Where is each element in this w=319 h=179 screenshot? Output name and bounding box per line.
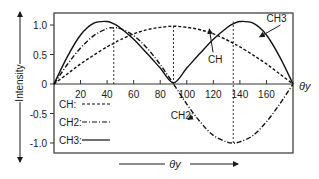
y-axis-ticks: 1.00.50-0.5-1.0 — [30, 20, 54, 149]
x-axis-label-group: θy — [119, 158, 238, 170]
x-tick-label: 160 — [258, 89, 275, 100]
legend: CH:CH2:CH3: — [59, 99, 110, 146]
annotation-label: CH3 — [266, 13, 286, 24]
y-tick-label: 0.5 — [33, 50, 47, 61]
y-tick-label: -0.5 — [30, 109, 48, 120]
line-chart: 20406080100120140160 1.00.50-0.5-1.0 CH3… — [0, 0, 319, 179]
annotation-label: CH2: — [171, 110, 194, 121]
legend-label: CH: — [59, 99, 76, 110]
x-tick-label: 120 — [205, 89, 222, 100]
legend-label: CH3: — [59, 135, 82, 146]
legend-label: CH2: — [59, 117, 82, 128]
annotation-label: CH — [208, 54, 222, 65]
series-ch2-line — [54, 28, 293, 143]
y-tick-label: 1.0 — [33, 20, 47, 31]
y-tick-label: -1.0 — [30, 138, 48, 149]
x-axis-label: θy — [169, 158, 182, 170]
x-tick-label: 40 — [102, 89, 114, 100]
y-tick-label: 0 — [41, 79, 47, 90]
y-axis-label-group: Intensity — [14, 12, 25, 162]
x-tick-label: 20 — [75, 89, 87, 100]
x-axis-end-label: θy — [299, 80, 312, 92]
x-tick-label: 80 — [155, 89, 167, 100]
y-axis-label: Intensity — [14, 64, 25, 101]
x-tick-label: 140 — [232, 89, 249, 100]
x-tick-label: 60 — [128, 89, 140, 100]
